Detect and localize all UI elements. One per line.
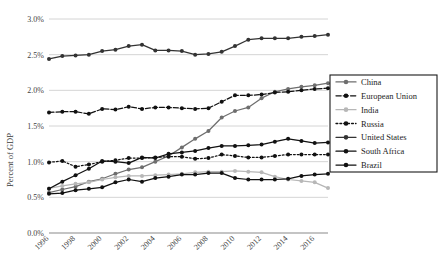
legend-label: India	[361, 105, 379, 115]
x-tick-label: 2014	[272, 234, 290, 252]
data-point	[313, 153, 317, 157]
data-point	[74, 188, 78, 192]
x-tick-label: 2008	[192, 234, 210, 252]
data-point	[167, 105, 171, 109]
data-point	[74, 165, 78, 169]
data-point	[193, 53, 197, 57]
legend-label: European Union	[361, 91, 418, 101]
x-tick-label: 2012	[245, 234, 263, 252]
data-point	[286, 36, 290, 40]
legend-swatch-marker	[344, 121, 349, 126]
data-point	[87, 53, 91, 57]
data-point	[180, 145, 184, 149]
data-point	[127, 44, 131, 48]
series-line	[49, 155, 328, 167]
data-point	[87, 112, 91, 116]
y-tick-label: 1.5%	[27, 122, 44, 131]
data-point	[113, 48, 117, 52]
data-point	[233, 176, 237, 180]
data-point	[313, 180, 317, 184]
data-point	[233, 93, 237, 97]
y-tick-label: 1.0%	[27, 158, 44, 167]
data-point	[299, 139, 303, 143]
legend-swatch-marker	[344, 93, 349, 98]
data-point	[100, 185, 104, 189]
data-point	[246, 155, 250, 159]
data-point	[60, 159, 64, 163]
data-point	[47, 192, 51, 196]
data-point	[326, 81, 330, 85]
legend-label: China	[361, 77, 382, 87]
data-point	[260, 178, 264, 182]
x-tick-label: 2016	[298, 234, 316, 252]
data-point	[260, 143, 264, 147]
data-point	[260, 170, 264, 174]
data-point	[113, 175, 117, 179]
data-point	[180, 106, 184, 110]
data-point	[100, 107, 104, 111]
data-point	[87, 163, 91, 167]
data-point	[206, 171, 210, 175]
data-point	[74, 173, 78, 177]
data-point	[140, 180, 144, 184]
data-point	[260, 155, 264, 159]
legend-swatch-marker	[344, 80, 349, 85]
legend-label: South Africa	[361, 146, 404, 156]
data-series-layer	[47, 33, 330, 196]
data-point	[60, 184, 64, 188]
data-point	[193, 173, 197, 177]
data-point	[326, 172, 330, 176]
legend-label: Russia	[361, 119, 384, 129]
data-point	[113, 160, 117, 164]
data-point	[220, 153, 224, 157]
legend-label: United States	[361, 132, 407, 142]
data-point	[273, 140, 277, 144]
data-point	[326, 33, 330, 37]
data-point	[220, 171, 224, 175]
data-point	[127, 161, 131, 165]
data-point	[260, 96, 264, 100]
data-point	[74, 182, 78, 186]
data-point	[193, 107, 197, 111]
data-point	[246, 93, 250, 97]
data-point	[87, 167, 91, 171]
data-point	[180, 155, 184, 159]
series-line	[49, 83, 328, 193]
data-point	[167, 175, 171, 179]
data-point	[47, 187, 51, 191]
data-point	[127, 156, 131, 160]
data-point	[206, 106, 210, 110]
data-point	[206, 129, 210, 133]
data-point	[326, 153, 330, 157]
data-point	[127, 105, 131, 109]
data-point	[246, 178, 250, 182]
data-point	[193, 137, 197, 141]
data-point	[74, 110, 78, 114]
data-point	[233, 144, 237, 148]
data-point	[299, 153, 303, 157]
data-point	[299, 179, 303, 183]
data-point	[206, 146, 210, 150]
series-united-states	[47, 33, 330, 61]
data-point	[127, 168, 131, 172]
y-tick-label: 0.5%	[27, 193, 44, 202]
data-point	[233, 154, 237, 158]
data-point	[113, 180, 117, 184]
chart-container: 0.0%0.5%1.0%1.5%2.0%2.5%3.0% 19961998200…	[0, 0, 439, 267]
data-point	[313, 173, 317, 177]
data-point	[313, 83, 317, 87]
legend-swatch-marker	[344, 135, 349, 140]
data-point	[299, 174, 303, 178]
series-russia	[47, 153, 330, 169]
y-axis-tick-labels: 0.0%0.5%1.0%1.5%2.0%2.5%3.0%	[27, 15, 44, 238]
data-point	[167, 48, 171, 52]
data-point	[260, 93, 264, 97]
data-point	[273, 90, 277, 94]
data-point	[87, 187, 91, 191]
data-point	[233, 169, 237, 173]
data-point	[313, 141, 317, 145]
data-point	[60, 180, 64, 184]
data-point	[153, 48, 157, 52]
data-point	[60, 110, 64, 114]
data-point	[220, 50, 224, 54]
